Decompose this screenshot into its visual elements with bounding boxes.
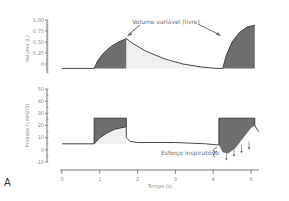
pressure-tick-label: 10: [38, 134, 44, 140]
pressure-y-axis-label: Pressão (cmH2O): [24, 104, 30, 147]
effort-annotation: Esforço inspiratório: [161, 149, 219, 157]
time-axis-ticks: 012345: [60, 170, 252, 182]
effort-arrowhead: [225, 158, 227, 160]
time-tick-label: 0: [60, 176, 63, 182]
volume-y-ticks: 00,250,500,751,00: [33, 17, 49, 73]
time-tick-label: 5: [249, 176, 252, 182]
volume-tick-label: 0: [41, 61, 44, 67]
panel-letter: A: [4, 177, 11, 188]
volume-expiration-fill: [126, 39, 222, 69]
annotation-arrowhead-right: [216, 32, 221, 36]
volume-shaded-region-2: [223, 25, 255, 68]
volume-y-axis-label: Volume (L): [24, 35, 30, 62]
effort-arrowhead: [233, 155, 235, 157]
time-axis-label: Tempo (s): [147, 183, 173, 190]
time-axis: 012345 Tempo (s): [60, 170, 259, 190]
volume-annotation: Volume variável (livre): [132, 18, 200, 25]
time-tick-label: 4: [212, 176, 215, 182]
pressure-tick-label: 30: [38, 110, 44, 116]
annotation-arrow-right: [198, 24, 218, 34]
pressure-y-ticks: -1001020304050: [36, 86, 49, 165]
volume-tick-label: 0,50: [33, 39, 44, 45]
time-tick-label: 2: [136, 176, 139, 182]
effort-arrowhead: [240, 151, 242, 153]
pressure-tick-label: 40: [38, 98, 44, 104]
pressure-tick-label: 20: [38, 122, 44, 128]
volume-tick-label: 0,25: [33, 50, 44, 56]
effort-arrowhead: [248, 147, 250, 149]
volume-tick-label: 1,00: [33, 17, 44, 23]
volume-panel: 00,250,500,751,00 Volume (L) Volume vari…: [24, 17, 255, 73]
figure: 00,250,500,751,00 Volume (L) Volume vari…: [0, 0, 289, 201]
pressure-tick-label: 0: [41, 147, 44, 153]
pressure-tick-label: 50: [38, 86, 44, 92]
time-tick-label: 3: [174, 176, 177, 182]
pressure-panel: -1001020304050 Pressão (cmH2O) Esforço i…: [24, 86, 259, 165]
pressure-tick-label: -10: [36, 159, 44, 165]
time-tick-label: 1: [98, 176, 101, 182]
volume-tick-label: 0,75: [33, 28, 44, 34]
volume-shaded-region-1: [94, 39, 126, 69]
